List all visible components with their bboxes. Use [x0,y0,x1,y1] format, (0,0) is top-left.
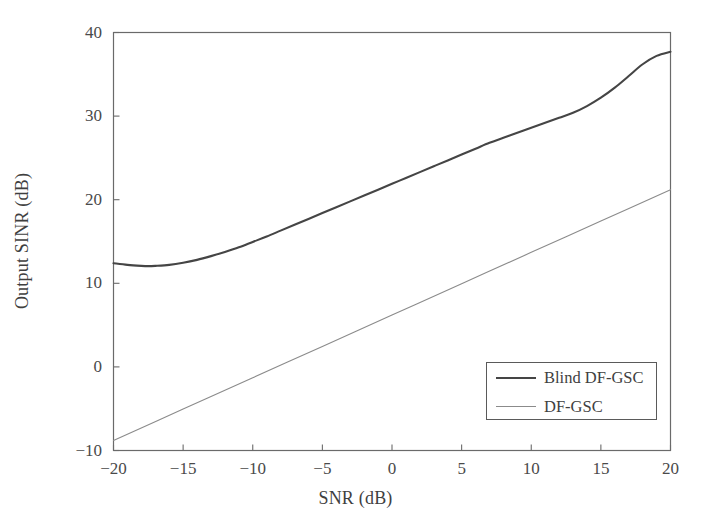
y-tick-label: 0 [40,357,102,377]
chart-legend: Blind DF-GSC DF-GSC [486,362,657,420]
series-line-blind-df-gsc [114,52,671,266]
y-tick-label: 10 [40,273,102,293]
x-tick-label: −20 [100,459,127,479]
legend-item-df-gsc: DF-GSC [487,392,656,421]
legend-label-primary: Blind DF-GSC [544,368,643,388]
legend-label-secondary: DF-GSC [544,397,603,417]
x-tick-label: 20 [662,459,679,479]
x-tick-label: 10 [523,459,540,479]
y-tick-label: 40 [40,23,102,43]
y-tick-label: −10 [40,441,102,461]
legend-line-swatch-primary [496,377,536,379]
x-tick-label: 15 [592,459,609,479]
x-tick-label: −5 [313,459,331,479]
chart-canvas [0,0,711,530]
y-axis-title: Output SINR (dB) [6,32,38,450]
y-tick-label: 30 [40,106,102,126]
x-axis-title: SNR (dB) [0,488,711,509]
x-tick-label: −10 [239,459,266,479]
figure-container: Output SINR (dB) SNR (dB) −10010203040 −… [0,0,711,530]
x-tick-label: 5 [457,459,466,479]
x-tick-label: 0 [388,459,397,479]
legend-item-blind-df-gsc: Blind DF-GSC [487,363,656,392]
legend-line-swatch-secondary [496,406,536,407]
x-tick-label: −15 [170,459,197,479]
y-tick-label: 20 [40,190,102,210]
